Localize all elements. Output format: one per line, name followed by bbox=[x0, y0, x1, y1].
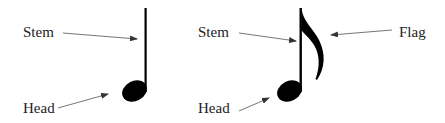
flag-arrow bbox=[331, 30, 392, 35]
eighth-note bbox=[273, 8, 323, 106]
head-arrow-left bbox=[58, 94, 108, 108]
stem-arrow-left bbox=[63, 33, 137, 39]
stem-label-left: Stem bbox=[23, 25, 54, 40]
eighth-note-flag bbox=[302, 8, 324, 80]
flag-label: Flag bbox=[399, 25, 426, 40]
quarter-note-stem bbox=[145, 8, 147, 92]
stem-arrow-right bbox=[239, 33, 296, 41]
head-label-left: Head bbox=[23, 101, 55, 116]
head-label-right: Head bbox=[198, 101, 230, 116]
stem-label-right: Stem bbox=[198, 25, 229, 40]
quarter-note bbox=[118, 8, 150, 106]
head-arrow-right bbox=[239, 98, 269, 111]
